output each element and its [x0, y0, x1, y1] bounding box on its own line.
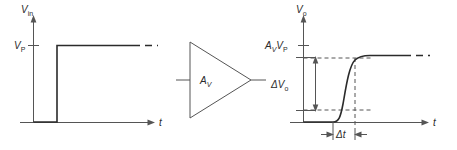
figure-canvas: Vin VP t AV: [0, 0, 457, 150]
right-plot-y-axis: [301, 15, 307, 123]
right-plot-group: Vo AVVP ΔVo Δt t: [264, 4, 437, 140]
right-plot-t-axis-label: t: [433, 117, 437, 128]
left-plot-y-axis: [31, 15, 37, 123]
right-plot-y-axis-label: Vo: [296, 4, 307, 17]
right-x-axis-arrowhead: [422, 120, 430, 126]
left-plot-t-axis-label: t: [159, 117, 163, 128]
right-plot-avvp-label: AVVP: [264, 40, 288, 53]
input-step-waveform: [34, 46, 134, 123]
left-plot-group: Vin VP t: [0, 0, 163, 128]
left-plot-y-axis-label: Vin: [21, 4, 33, 17]
output-waveform-curve: [304, 56, 405, 123]
left-plot-vp-tick-label: VP: [14, 40, 26, 53]
left-x-axis-arrowhead: [148, 120, 156, 126]
delta-v-label: ΔVo: [270, 79, 288, 92]
delta-v-measure: [296, 56, 318, 112]
amplifier-gain-label: AV: [199, 75, 213, 88]
amplifier-step-response-figure: Vin VP t AV: [0, 0, 457, 150]
amplifier-group: AV: [176, 42, 266, 118]
delta-t-label: Δt: [335, 129, 347, 140]
